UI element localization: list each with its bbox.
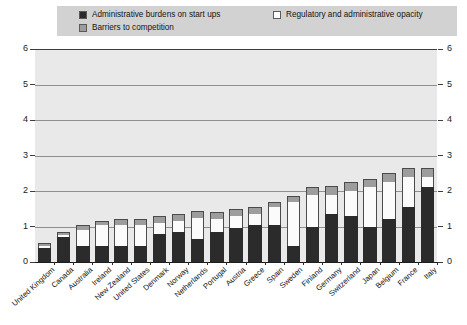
- y-tick-label-left-3: 3: [12, 151, 28, 160]
- segment-barriers-to-competition: [382, 173, 395, 182]
- bar-portugal[interactable]: [210, 212, 223, 262]
- bar-switzerland[interactable]: [344, 182, 357, 262]
- legend-swatch-administrative-burdens: [79, 11, 87, 19]
- y-tick-label-right-4: 4: [447, 115, 463, 124]
- y-tick-mark-right-0: [438, 262, 443, 263]
- segment-barriers-to-competition: [248, 207, 261, 214]
- x-tick-2: [92, 262, 93, 265]
- segment-barriers-to-competition: [344, 182, 357, 191]
- bar-italy[interactable]: [421, 168, 434, 262]
- y-tick-label-right-1: 1: [447, 222, 463, 231]
- x-tick-8: [207, 262, 208, 265]
- x-tick-14: [322, 262, 323, 265]
- segment-administrative-burdens: [306, 227, 319, 263]
- bar-greece[interactable]: [248, 207, 261, 262]
- y-tick-label-left-0: 0: [12, 257, 28, 266]
- y-tick-label-left-4: 4: [12, 115, 28, 124]
- x-axis-label-italy: Italy: [423, 266, 439, 281]
- segment-regulatory-opacity: [76, 230, 89, 246]
- segment-barriers-to-competition: [306, 187, 319, 194]
- segment-regulatory-opacity: [114, 225, 127, 246]
- x-tick-7: [188, 262, 189, 265]
- x-tick-16: [360, 262, 361, 265]
- segment-administrative-burdens: [382, 219, 395, 262]
- x-tick-17: [380, 262, 381, 265]
- segment-barriers-to-competition: [172, 214, 185, 221]
- bar-new-zealand[interactable]: [114, 219, 127, 262]
- x-tick-9: [226, 262, 227, 265]
- bar-ireland[interactable]: [95, 221, 108, 262]
- segment-regulatory-opacity: [153, 223, 166, 234]
- segment-regulatory-opacity: [344, 191, 357, 216]
- segment-barriers-to-competition: [229, 209, 242, 216]
- segment-administrative-burdens: [421, 187, 434, 262]
- segment-regulatory-opacity: [402, 177, 415, 207]
- legend-item-regulatory-opacity: Regulatory and administrative opacity: [273, 10, 423, 19]
- x-axis-label-france: France: [397, 266, 420, 288]
- segment-administrative-burdens: [38, 248, 51, 262]
- bar-canada[interactable]: [57, 232, 70, 262]
- segment-barriers-to-competition: [191, 211, 204, 218]
- legend-label-barriers-to-competition: Barriers to competition: [92, 23, 174, 32]
- legend-item-administrative-burdens: Administrative burdens on start ups: [79, 10, 220, 19]
- bar-france[interactable]: [402, 168, 415, 262]
- y-tick-mark-right-1: [438, 226, 443, 227]
- x-tick-10: [246, 262, 247, 265]
- segment-regulatory-opacity: [134, 225, 147, 246]
- y-tick-mark-right-4: [438, 120, 443, 121]
- segment-regulatory-opacity: [306, 195, 319, 227]
- segment-regulatory-opacity: [95, 225, 108, 246]
- bar-norway[interactable]: [172, 214, 185, 262]
- y-tick-label-right-3: 3: [447, 151, 463, 160]
- bar-australia[interactable]: [76, 225, 89, 262]
- x-tick-18: [399, 262, 400, 265]
- segment-regulatory-opacity: [325, 195, 338, 215]
- bar-denmark[interactable]: [153, 216, 166, 262]
- y-tick-label-left-2: 2: [12, 186, 28, 195]
- segment-regulatory-opacity: [229, 216, 242, 228]
- bar-austria[interactable]: [229, 209, 242, 262]
- segment-administrative-burdens: [287, 246, 300, 262]
- bar-united-states[interactable]: [134, 219, 147, 262]
- segment-administrative-burdens: [57, 237, 70, 262]
- bar-japan[interactable]: [363, 179, 376, 262]
- segment-regulatory-opacity: [421, 177, 434, 188]
- bar-netherlands[interactable]: [191, 211, 204, 262]
- x-axis-label-united-kingdom: United Kingdom: [10, 266, 56, 308]
- segment-administrative-burdens: [191, 239, 204, 262]
- segment-barriers-to-competition: [402, 168, 415, 177]
- bar-germany[interactable]: [325, 186, 338, 262]
- x-tick-15: [341, 262, 342, 265]
- bar-finland[interactable]: [306, 187, 319, 262]
- x-tick-13: [303, 262, 304, 265]
- segment-administrative-burdens: [210, 232, 223, 262]
- bar-spain[interactable]: [268, 202, 281, 262]
- y-tick-mark-left-2: [30, 191, 35, 192]
- segment-administrative-burdens: [344, 216, 357, 262]
- segment-administrative-burdens: [114, 246, 127, 262]
- segment-barriers-to-competition: [363, 179, 376, 188]
- segment-regulatory-opacity: [248, 214, 261, 225]
- x-tick-3: [112, 262, 113, 265]
- segment-administrative-burdens: [95, 246, 108, 262]
- y-tick-label-left-5: 5: [12, 80, 28, 89]
- y-tick-mark-left-1: [30, 226, 35, 227]
- segment-barriers-to-competition: [153, 216, 166, 223]
- segment-regulatory-opacity: [268, 207, 281, 225]
- y-tick-mark-right-2: [438, 191, 443, 192]
- segment-administrative-burdens: [76, 246, 89, 262]
- bar-sweden[interactable]: [287, 196, 300, 262]
- x-axis-labels: United KingdomCanadaAustraliaIrelandNew …: [0, 262, 467, 325]
- legend-label-administrative-burdens: Administrative burdens on start ups: [92, 10, 220, 19]
- segment-administrative-burdens: [134, 246, 147, 262]
- chart-root: Administrative burdens on start ups Barr…: [0, 0, 467, 325]
- bar-belgium[interactable]: [382, 173, 395, 262]
- bar-united-kingdom[interactable]: [38, 243, 51, 263]
- segment-administrative-burdens: [172, 232, 185, 262]
- segment-regulatory-opacity: [382, 182, 395, 219]
- x-tick-1: [73, 262, 74, 265]
- y-tick-mark-left-4: [30, 120, 35, 121]
- y-tick-label-right-6: 6: [447, 44, 463, 53]
- x-tick-0: [54, 262, 55, 265]
- legend-swatch-barriers-to-competition: [79, 24, 87, 32]
